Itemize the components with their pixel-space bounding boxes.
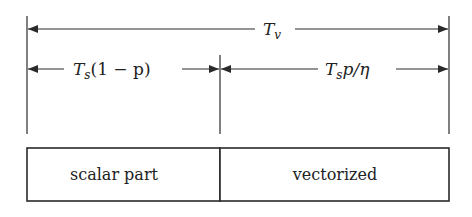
execution-time-diagram: Tv Ts(1 − p) Tsp/η scalar part vectorize… <box>0 0 472 217</box>
vector-time-label: Tsp/η <box>325 59 370 82</box>
vector-time-dimension: Tsp/η <box>221 59 448 82</box>
total-time-dimension: Tv <box>28 19 448 42</box>
vectorized-label: vectorized <box>292 165 377 184</box>
scalar-part-label: scalar part <box>70 165 159 184</box>
scalar-time-dimension: Ts(1 − p) <box>28 59 219 82</box>
execution-bar: scalar part vectorized <box>27 148 449 201</box>
total-time-label: Tv <box>263 19 281 42</box>
scalar-time-label: Ts(1 − p) <box>73 59 151 82</box>
